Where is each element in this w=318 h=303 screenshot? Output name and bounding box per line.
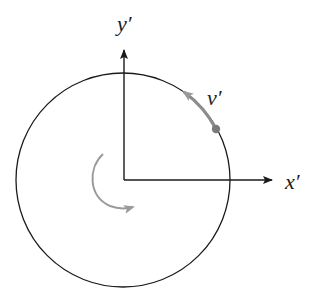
rotation-arrow (93, 154, 133, 208)
particle-point (212, 125, 220, 133)
y-axis-label: y′ (115, 11, 133, 36)
velocity-label: v′ (207, 85, 223, 110)
diagram-canvas: y′ x′ v′ (0, 0, 318, 303)
x-axis-label: x′ (284, 169, 301, 194)
